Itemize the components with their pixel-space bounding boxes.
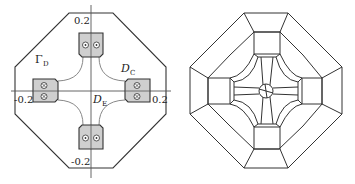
dot-icon <box>94 42 100 48</box>
tick-label-right: 0.2 <box>152 94 168 105</box>
dot-icon <box>83 135 89 141</box>
tick-label-bottom: -0.2 <box>71 156 90 167</box>
label-d-c: D C <box>120 62 135 77</box>
conductor-box-left <box>33 79 58 102</box>
label-d-e: D E <box>92 93 107 108</box>
tick-label-top: 0.2 <box>74 15 90 26</box>
cross-icon <box>134 94 140 100</box>
svg-text:D: D <box>120 62 130 75</box>
label-gamma-d: Γ D <box>35 53 49 68</box>
svg-text:Γ: Γ <box>35 53 43 66</box>
tick-label-left: -0.2 <box>14 94 33 105</box>
dot-icon <box>83 42 89 48</box>
svg-text:E: E <box>102 100 107 108</box>
svg-text:C: C <box>130 69 135 77</box>
conductor-box-bottom <box>79 125 103 149</box>
svg-text:D: D <box>92 93 102 106</box>
dot-icon <box>94 135 100 141</box>
svg-text:D: D <box>43 60 49 68</box>
cross-icon <box>41 83 47 89</box>
right-diagram-mesh <box>190 13 342 168</box>
cross-icon <box>41 94 47 100</box>
conductor-box-top <box>79 33 103 57</box>
cross-icon <box>134 83 140 89</box>
conductor-box-right <box>125 79 150 102</box>
left-diagram: 0.2 -0.2 -0.2 0.2 Γ D D C D E <box>11 5 171 178</box>
